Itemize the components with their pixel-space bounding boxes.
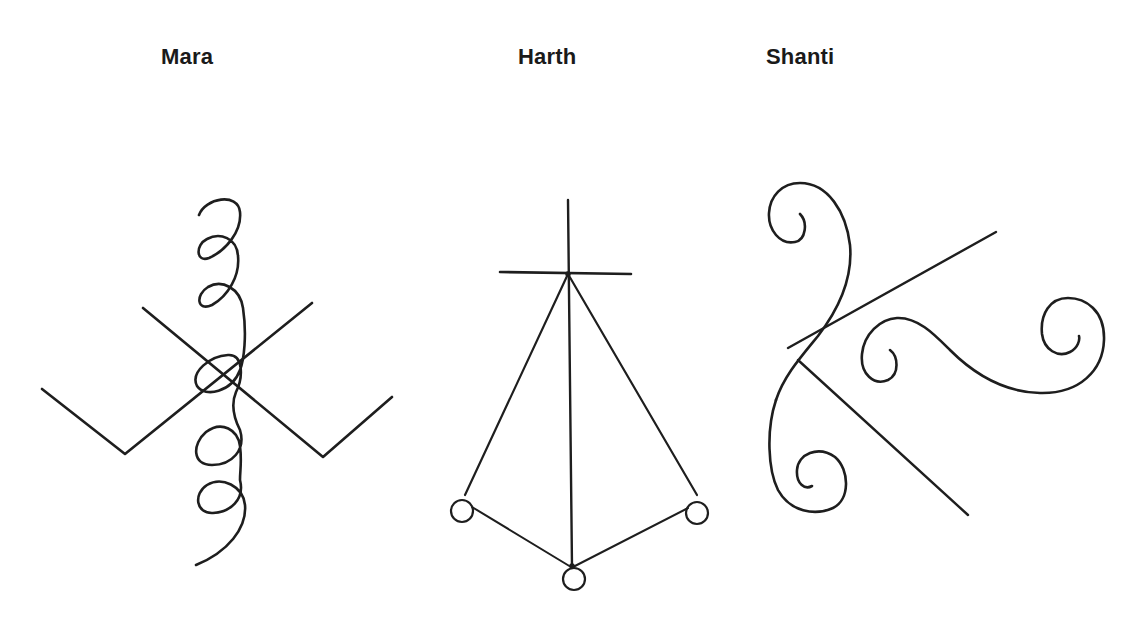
harth-left-base xyxy=(472,507,571,567)
mara-spiral-coil xyxy=(196,199,246,565)
harth-right-base xyxy=(573,508,688,567)
harth-bottom-circle xyxy=(563,568,585,590)
symbols-figure xyxy=(0,0,1139,619)
harth-right-leg xyxy=(568,274,697,495)
harth-left-circle xyxy=(451,500,473,522)
shanti-upper-spiral xyxy=(769,183,850,400)
harth-right-circle xyxy=(686,502,708,524)
shanti-lower-spiral xyxy=(769,400,846,512)
shanti-lower-line xyxy=(798,360,968,515)
harth-left-leg xyxy=(465,274,568,495)
shanti-symbol-icon xyxy=(769,183,1104,515)
harth-vertical-line xyxy=(568,200,572,567)
harth-apex-dot xyxy=(566,272,570,276)
mara-symbol-icon xyxy=(42,199,392,565)
mara-right-l-line xyxy=(143,308,392,457)
mara-left-l-line xyxy=(42,303,312,454)
harth-bottom-dot xyxy=(570,564,574,568)
shanti-right-s-spiral xyxy=(862,298,1104,393)
harth-symbol-icon xyxy=(451,200,708,590)
shanti-upper-line xyxy=(788,232,996,348)
